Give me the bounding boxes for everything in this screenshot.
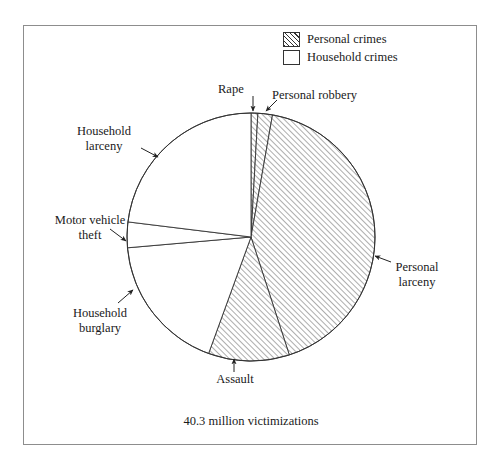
figure-caption: 40.3 million victimizations bbox=[0, 414, 502, 429]
slice-label-household-larceny: Household larceny bbox=[58, 124, 150, 154]
slice-label-motor-vehicle-theft: Motor vehicle theft bbox=[38, 213, 142, 243]
slice-label-household-burglary: Household burglary bbox=[54, 306, 146, 336]
pie-slice-group bbox=[127, 113, 375, 361]
slice-label-assault: Assault bbox=[200, 372, 270, 387]
leader-household-burglary bbox=[118, 290, 133, 303]
slice-label-personal-robbery: Personal robbery bbox=[272, 88, 357, 103]
slice-label-personal-larceny: Personal larceny bbox=[381, 260, 453, 290]
slice-label-rape: Rape bbox=[218, 82, 244, 97]
